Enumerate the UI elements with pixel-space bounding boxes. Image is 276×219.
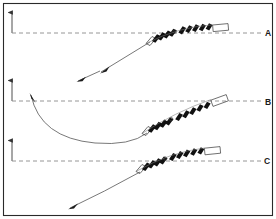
panel-a-approach-arrowhead — [100, 67, 110, 74]
figure-canvas — [0, 0, 276, 219]
panel-a-blade-strip — [146, 23, 229, 45]
figure-border — [4, 4, 273, 216]
figure-root: A B C — [0, 0, 276, 219]
panel-b-stray-arrow — [77, 71, 101, 82]
panel-b-approach-path — [31, 95, 147, 144]
panel-c — [12, 141, 262, 210]
panel-c-approach-path — [70, 172, 140, 208]
panel-c-blade-strip — [136, 147, 221, 174]
panel-label-b: B — [265, 98, 271, 107]
panel-a — [12, 13, 262, 74]
panel-b — [12, 71, 262, 144]
panel-label-c: C — [264, 157, 270, 166]
panel-label-a: A — [265, 29, 271, 38]
